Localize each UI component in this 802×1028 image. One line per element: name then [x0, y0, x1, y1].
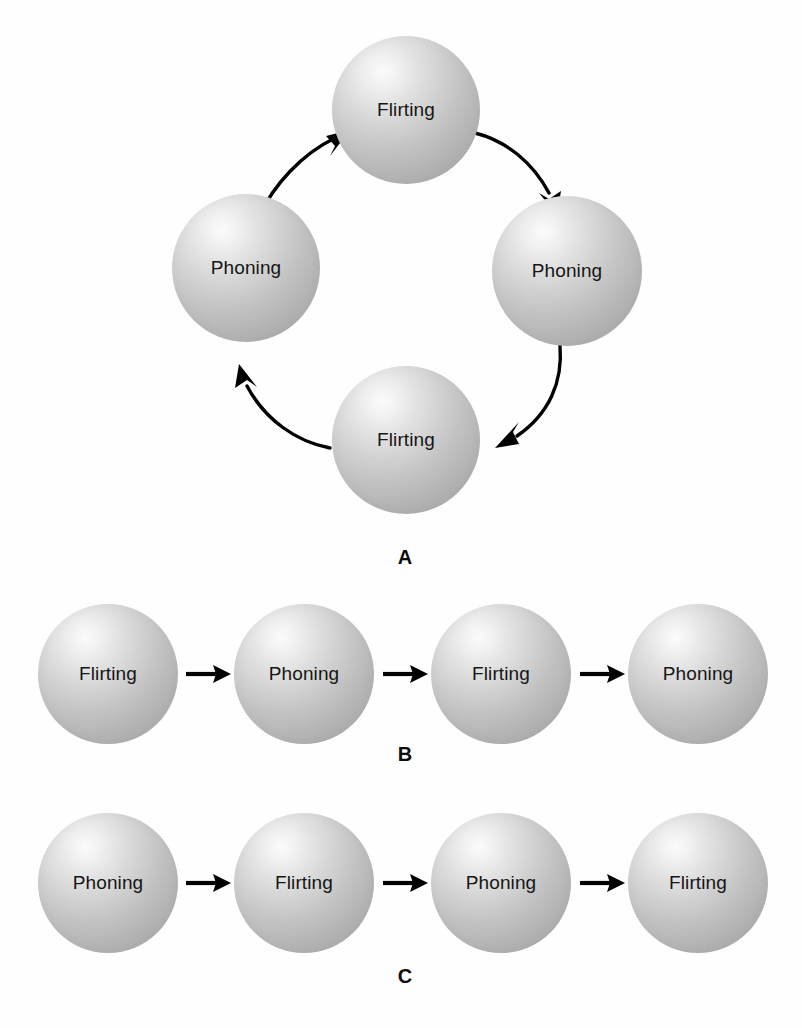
panel-caption-b: B	[385, 743, 425, 766]
arrow-right	[579, 660, 627, 688]
node-label: Phoning	[211, 257, 281, 279]
node-sphere[interactable]: Phoning	[172, 194, 320, 342]
node-sphere[interactable]: Phoning	[628, 604, 768, 744]
node-sphere[interactable]: Phoning	[234, 604, 374, 744]
node-sphere[interactable]: Flirting	[332, 36, 480, 184]
node-sphere[interactable]: Phoning	[431, 813, 571, 953]
node-label: Flirting	[669, 872, 727, 894]
panel-b: Flirting Phoning Flirting Phoning B	[0, 595, 802, 780]
arrow-right	[185, 869, 233, 897]
node-sphere[interactable]: Flirting	[234, 813, 374, 953]
node-sphere[interactable]: Flirting	[332, 366, 480, 514]
node-label: Phoning	[532, 260, 602, 282]
node-label: Flirting	[275, 872, 333, 894]
node-sphere[interactable]: Phoning	[38, 813, 178, 953]
panel-caption-a: A	[385, 546, 425, 569]
arrow-right	[382, 660, 430, 688]
node-sphere[interactable]: Flirting	[628, 813, 768, 953]
arrow-right	[382, 869, 430, 897]
node-label: Flirting	[377, 99, 435, 121]
figure-root: Flirting Phoning Flirting Phoning A Flir…	[0, 0, 802, 1028]
node-label: Phoning	[269, 663, 339, 685]
panel-a: Flirting Phoning Flirting Phoning A	[0, 0, 802, 585]
arrow-right	[579, 869, 627, 897]
node-label: Flirting	[79, 663, 137, 685]
node-sphere[interactable]: Phoning	[492, 196, 642, 346]
node-label: Phoning	[466, 872, 536, 894]
panel-c: Phoning Flirting Phoning Flirting C	[0, 805, 802, 1005]
node-label: Phoning	[73, 872, 143, 894]
node-label: Flirting	[472, 663, 530, 685]
node-sphere[interactable]: Flirting	[38, 604, 178, 744]
node-sphere[interactable]: Flirting	[431, 604, 571, 744]
arrow-right	[185, 660, 233, 688]
node-label: Flirting	[377, 429, 435, 451]
node-label: Phoning	[663, 663, 733, 685]
panel-caption-c: C	[385, 965, 425, 988]
